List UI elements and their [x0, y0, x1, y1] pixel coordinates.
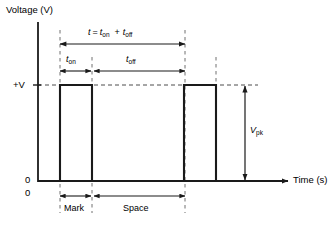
x-origin-label: 0 [25, 188, 30, 198]
t-on-label: ton [66, 55, 76, 64]
v-pk-subscript: pk [256, 129, 263, 136]
t-off-subscript: off [129, 58, 136, 65]
period-plus: + [115, 27, 120, 37]
period-term2-subscript: off [125, 31, 132, 38]
t-off-label: toff [126, 55, 136, 64]
period-equation-label: t=ton+toff [88, 28, 132, 37]
y-axis-title: Voltage (V) [6, 5, 53, 15]
mark-label: Mark [64, 204, 84, 213]
y-tick-label-plus-v: +V [13, 80, 25, 90]
x-axis-title: Time (s) [293, 175, 327, 185]
space-label: Space [123, 204, 149, 213]
t-on-subscript: on [69, 58, 76, 65]
v-pk-label: Vpk [250, 126, 263, 135]
y-tick-label-zero: 0 [25, 175, 30, 185]
pwm-waveform-diagram: Voltage (V) Time (s) +V 0 0 t=ton+toff t… [0, 0, 336, 226]
waveform-plot-area [0, 0, 336, 226]
period-symbol: t [88, 27, 91, 37]
period-equals: = [93, 27, 98, 37]
period-term1-subscript: on [102, 31, 109, 38]
